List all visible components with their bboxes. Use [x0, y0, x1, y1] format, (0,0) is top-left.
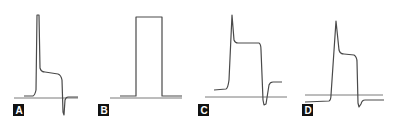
panel-d: D: [302, 21, 384, 116]
panel-c: C: [198, 15, 287, 116]
panel-b-label: B: [101, 105, 108, 116]
panel-a-label: A: [16, 105, 23, 116]
panel-d-label: D: [305, 105, 312, 116]
panel-c-label: C: [201, 105, 208, 116]
panel-b-waveform: [120, 17, 182, 96]
panel-d-waveform: [305, 21, 384, 107]
panel-c-waveform: [214, 15, 282, 105]
panel-b: B: [98, 17, 182, 116]
panel-a: A: [13, 15, 78, 116]
panel-a-waveform: [24, 15, 78, 115]
waveform-figure: A B C D: [0, 0, 395, 120]
